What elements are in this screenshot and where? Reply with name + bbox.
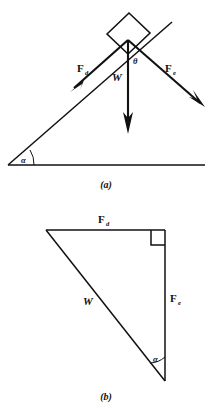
force-e-label-subscript: e — [173, 69, 176, 76]
panel-b-caption: (b) — [100, 391, 112, 403]
force-d-label: F d — [77, 62, 89, 76]
weight-label: W — [112, 71, 123, 83]
panel-b-force-triangle: F d F e W α (b) — [0, 200, 213, 412]
force-e-label-text: F — [165, 62, 172, 74]
physics-figure: F d F e W θ α (a) F d — [0, 0, 213, 412]
right-angle-marker — [151, 230, 165, 245]
force-e-vector-line — [128, 40, 200, 103]
force-d-label-b: F d — [98, 213, 110, 227]
panel-a-inclined-plane: F d F e W θ α (a) — [0, 0, 213, 200]
force-d-arrowhead — [70, 80, 84, 92]
triangle-hypotenuse — [46, 230, 165, 381]
angle-alpha-arc — [30, 150, 34, 165]
force-d-label-text: F — [77, 62, 84, 74]
incline-surface-line — [8, 22, 172, 165]
panel-a-caption: (a) — [100, 179, 112, 191]
force-e-arrowhead — [189, 90, 205, 107]
force-e-label-text-b: F — [170, 292, 177, 304]
force-d-label-text-b: F — [98, 213, 105, 225]
angle-alpha-label-b: α — [153, 354, 158, 364]
force-d-label-subscript-b: d — [106, 220, 110, 227]
force-e-label-b: F e — [170, 292, 181, 306]
angle-theta-label: θ — [133, 56, 138, 66]
force-e-label-subscript-b: e — [178, 299, 181, 306]
weight-label-b: W — [83, 295, 94, 307]
angle-alpha-label: α — [21, 155, 26, 165]
force-e-label: F e — [165, 62, 176, 76]
